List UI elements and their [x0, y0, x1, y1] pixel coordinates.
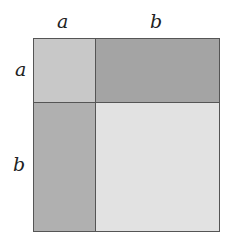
region-b-squared — [95, 102, 220, 232]
left-label-a: a — [15, 60, 26, 79]
top-label-a: a — [57, 12, 68, 31]
region-a-squared — [33, 38, 96, 103]
region-ab-left — [33, 102, 96, 232]
top-label-b: b — [150, 12, 162, 31]
region-ab-top — [95, 38, 220, 103]
left-label-b: b — [13, 155, 25, 174]
